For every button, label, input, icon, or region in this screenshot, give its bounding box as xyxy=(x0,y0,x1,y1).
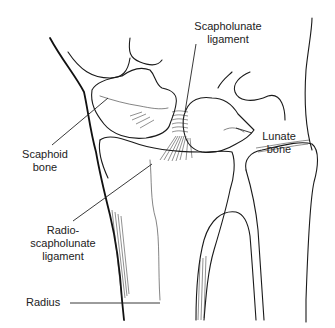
radius-ridge xyxy=(150,160,160,300)
label-line: ligament xyxy=(22,250,104,263)
upper-carpal-left xyxy=(68,52,130,78)
scapholunate-ligament-fibers xyxy=(172,111,188,132)
label-line: scapholunate xyxy=(22,237,104,250)
radius-outline xyxy=(100,137,234,320)
label-line: Radio- xyxy=(22,224,104,237)
label-line: Lunate xyxy=(254,130,304,143)
left-contour xyxy=(50,38,124,320)
label-scapholunate-ligament: Scapholunate ligament xyxy=(188,20,268,46)
scaphoid-detail xyxy=(100,96,168,109)
label-line: bone xyxy=(14,161,76,174)
scapholunate-leader-line xyxy=(185,44,196,112)
ulna-outline xyxy=(246,143,318,322)
upper-carpal-mid xyxy=(129,38,162,65)
label-radius: Radius xyxy=(26,296,64,309)
label-line: Scapholunate xyxy=(188,20,268,33)
label-scaphoid-bone: Scaphoid bone xyxy=(14,148,76,174)
scaphoid-bone-outline xyxy=(92,68,177,138)
scaphoid-leader-line xyxy=(52,98,108,145)
label-line: bone xyxy=(254,143,304,156)
scaphoid-hatch xyxy=(130,112,154,128)
label-line: ligament xyxy=(188,33,268,46)
right-contour xyxy=(305,18,312,150)
label-radioscapholunate-ligament: Radio- scapholunate ligament xyxy=(22,224,104,263)
upper-carpal-right xyxy=(218,72,285,120)
label-lunate-bone: Lunate bone xyxy=(254,130,304,156)
wrist-anatomy-diagram: Scapholunate ligament Scaphoid bone Luna… xyxy=(0,0,335,328)
label-line: Scaphoid xyxy=(14,148,76,161)
label-line: Radius xyxy=(26,296,64,309)
radius-shading-left xyxy=(112,210,129,300)
lunate-bone-outline xyxy=(183,98,254,153)
radioscapholunate-ligament-fibers xyxy=(160,136,192,161)
